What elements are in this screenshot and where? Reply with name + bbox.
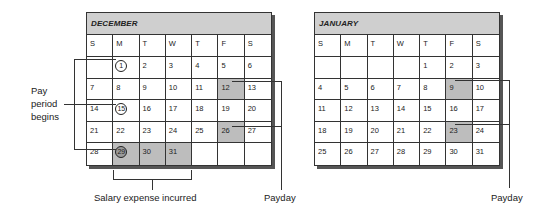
day-number: 31 [169, 147, 177, 156]
day-cell: 25 [192, 122, 218, 144]
empty-day-cell [192, 143, 218, 165]
day-cell: 30 [446, 143, 472, 165]
day-number: 22 [116, 126, 124, 135]
day-number: 25 [318, 147, 326, 156]
jan-payday-connector-9 [455, 80, 510, 81]
day-number: 11 [318, 104, 326, 113]
day-number: 6 [248, 61, 252, 70]
day-number: 27 [371, 147, 379, 156]
day-number: 8 [116, 83, 120, 92]
day-cell: 6 [245, 57, 271, 79]
day-cell: 31 [166, 143, 192, 165]
day-number: 4 [195, 61, 199, 70]
day-number: 25 [195, 126, 203, 135]
dec-payday-connector-12 [232, 81, 282, 82]
day-number: 27 [248, 126, 256, 135]
day-cell: 12 [341, 100, 367, 122]
day-cell: 31 [473, 143, 499, 165]
day-cell: 9 [140, 79, 166, 101]
pay-period-connector-1 [74, 59, 116, 60]
empty-day-cell [218, 143, 244, 165]
day-cell: 4 [192, 57, 218, 79]
day-number: 31 [476, 147, 484, 156]
day-number: 30 [143, 147, 151, 156]
day-cell: 22 [420, 122, 446, 144]
december-calendar: DECEMBER SMTWTFS123456789101112131415161… [86, 12, 272, 166]
pay-period-connector-29 [74, 149, 116, 150]
day-cell: 22 [113, 122, 139, 144]
day-cell: 6 [368, 79, 394, 101]
day-cell: 11 [192, 79, 218, 101]
day-number: 7 [397, 83, 401, 92]
weekday-header: F [446, 35, 472, 57]
empty-day-cell [87, 57, 113, 79]
day-number: 10 [169, 83, 177, 92]
day-number: 10 [476, 83, 484, 92]
pay-period-label-line1: Pay [31, 85, 47, 96]
weekday-header: T [140, 35, 166, 57]
day-number: 7 [90, 83, 94, 92]
day-number: 19 [344, 126, 352, 135]
day-cell: 18 [192, 100, 218, 122]
day-cell: 9 [446, 79, 472, 101]
day-number: 6 [371, 83, 375, 92]
day-cell: 25 [315, 143, 341, 165]
month-title: DECEMBER [87, 13, 271, 35]
day-number: 12 [344, 104, 352, 113]
day-cell: 27 [368, 143, 394, 165]
jan-payday-vertical [509, 80, 510, 188]
day-cell: 19 [341, 122, 367, 144]
day-number: 21 [90, 126, 98, 135]
day-number: 24 [169, 126, 177, 135]
day-number: 1 [423, 61, 427, 70]
day-cell: 24 [473, 122, 499, 144]
dec-payday-vertical [281, 81, 282, 190]
day-number: 21 [397, 126, 405, 135]
day-cell: 5 [218, 57, 244, 79]
day-number: 15 [423, 104, 431, 113]
day-number: 14 [90, 104, 98, 113]
day-number: 16 [143, 104, 151, 113]
day-cell: 28 [394, 143, 420, 165]
day-number: 9 [143, 83, 147, 92]
circled-day-number: 29 [115, 146, 127, 158]
day-number: 26 [221, 126, 229, 135]
salary-expense-label: Salary expense incurred [94, 192, 196, 203]
day-number: 18 [195, 104, 203, 113]
weekday-header: W [394, 35, 420, 57]
circled-day-number: 1 [115, 60, 127, 72]
day-cell: 20 [245, 100, 271, 122]
day-number: 18 [318, 126, 326, 135]
day-cell: 8 [113, 79, 139, 101]
empty-day-cell [368, 57, 394, 79]
weekday-header: S [315, 35, 341, 57]
day-cell: 16 [140, 100, 166, 122]
weekday-header: T [192, 35, 218, 57]
day-cell: 2 [140, 57, 166, 79]
weekday-header: T [368, 35, 394, 57]
day-cell: 5 [341, 79, 367, 101]
jan-payday-connector-23 [455, 124, 510, 125]
salary-bracket-left [113, 170, 114, 179]
day-cell: 17 [166, 100, 192, 122]
weekday-header: S [87, 35, 113, 57]
salary-bracket-stem [152, 179, 153, 190]
weekday-header: M [113, 35, 139, 57]
pay-period-label-line2: period [31, 98, 57, 109]
day-number: 29 [423, 147, 431, 156]
calendar-grid: SMTWTFS123456789101112131415161718192021… [87, 35, 271, 165]
day-number: 11 [195, 83, 203, 92]
day-number: 9 [449, 83, 453, 92]
day-number: 20 [371, 126, 379, 135]
day-cell: 29 [420, 143, 446, 165]
day-number: 3 [169, 61, 173, 70]
day-cell: 28 [87, 143, 113, 165]
day-cell: 7 [394, 79, 420, 101]
day-cell: 1 [420, 57, 446, 79]
salary-bracket-right [191, 170, 192, 179]
pay-period-label-line3: begins [31, 111, 59, 122]
day-number: 4 [318, 83, 322, 92]
day-cell: 10 [473, 79, 499, 101]
day-cell: 24 [166, 122, 192, 144]
empty-day-cell [315, 57, 341, 79]
